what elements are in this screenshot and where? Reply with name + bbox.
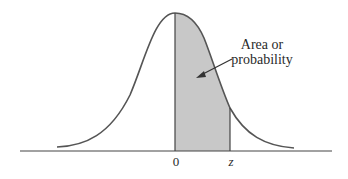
axis-label-z: z xyxy=(227,154,233,169)
axis-label-zero: 0 xyxy=(173,154,180,169)
annotation-label-line1: Area or xyxy=(241,37,284,52)
annotation-label-line2: probability xyxy=(231,52,292,67)
normal-curve-diagram: Area or probability 0 z xyxy=(0,0,348,179)
